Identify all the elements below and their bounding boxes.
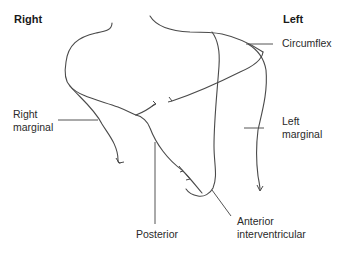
circumflex-label: Circumflex — [282, 37, 332, 49]
left-side-label: Left — [283, 13, 303, 25]
circumflex-artery — [248, 44, 266, 190]
anterior-iv-leader — [212, 190, 231, 216]
posterior-descending-artery — [136, 115, 202, 193]
posterior-arrow-lower — [186, 174, 190, 180]
circumflex-branch-arrow — [168, 97, 172, 102]
anterior-iv-label-line2: interventricular — [237, 228, 306, 240]
anterior-iv-label-line1: Anterior — [237, 215, 274, 227]
left-marginal-label-line1: Left — [282, 115, 300, 127]
right-marginal-label-line2: marginal — [13, 121, 53, 133]
right-side-label: Right — [14, 13, 42, 25]
posterior-label: Posterior — [136, 228, 178, 240]
left-marginal-label-line2: marginal — [282, 128, 322, 140]
right-marginal-arrow — [116, 158, 124, 163]
right-coronary-artery — [65, 23, 136, 115]
right-marginal-label-line1: Right — [13, 108, 38, 120]
posterior-arrow-mid — [179, 166, 183, 172]
right-marginal-artery — [70, 86, 120, 163]
left-main-coronary — [150, 16, 263, 52]
posterior-branch-arrow — [152, 101, 156, 106]
anterior-interventricular-artery — [186, 32, 219, 196]
circumflex-branch — [172, 52, 263, 101]
